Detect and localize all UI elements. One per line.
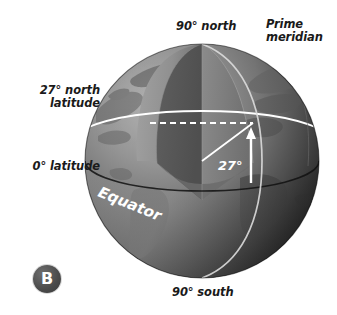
panel-badge: B (33, 265, 61, 293)
angle-label: 27° (218, 158, 243, 173)
globe-surface (85, 44, 319, 278)
label-latitude-0: 0° latitude (8, 160, 100, 173)
globe-sphere (85, 44, 319, 278)
panel-badge-letter: B (41, 271, 53, 287)
latitude-globe-figure: Equator 27° 90° north Prime meridian 27°… (0, 0, 337, 315)
label-latitude-27-north: 27° north latitude (8, 84, 100, 110)
label-prime-meridian: Prime meridian (266, 18, 323, 44)
label-north-pole: 90° north (176, 20, 236, 33)
label-south-pole: 90° south (172, 286, 233, 299)
